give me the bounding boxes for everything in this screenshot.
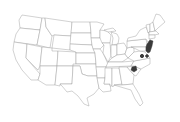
state-outlines <box>13 14 165 106</box>
state-nm <box>55 66 73 86</box>
state-ks <box>76 53 96 64</box>
state-az <box>38 66 57 85</box>
highlight-nj-de-md-coast <box>146 40 153 53</box>
highlight-va-1 <box>140 54 143 57</box>
state-ct-ri <box>149 35 155 39</box>
state-nd <box>71 22 91 33</box>
state-ut <box>40 47 58 66</box>
state-ny <box>127 27 150 42</box>
state-ms <box>104 68 112 86</box>
state-wy <box>52 35 71 50</box>
state-fl <box>114 84 143 106</box>
highlight-va-2 <box>146 55 149 58</box>
state-sd <box>70 33 92 45</box>
state-wa <box>19 15 42 30</box>
state-ar <box>96 67 106 78</box>
state-tn <box>106 61 134 67</box>
us-map <box>0 0 180 122</box>
state-co <box>57 51 76 66</box>
state-me <box>153 14 165 31</box>
state-ma <box>149 31 159 35</box>
